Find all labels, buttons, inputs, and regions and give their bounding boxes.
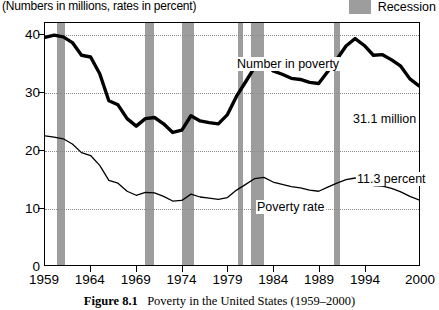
annotation-poverty-rate: Poverty rate (256, 200, 325, 214)
y-axis-tick-mark (38, 34, 44, 35)
annotation-number-in-poverty: Number in poverty (236, 57, 340, 71)
x-axis-tick-mark (365, 266, 366, 272)
x-axis-tick-label: 1959 (29, 272, 59, 287)
y-axis-tick-mark (38, 208, 44, 209)
plot-inner (45, 23, 419, 265)
x-axis-tick-mark (136, 266, 137, 272)
series-poverty-rate (45, 136, 419, 201)
figure-number: Figure 8.1 (84, 294, 138, 308)
legend: Recession (349, 0, 436, 14)
y-axis-tick-mark (38, 92, 44, 93)
figure-poverty-united-states: (Numbers in millions, rates in percent) … (0, 0, 439, 310)
annotation-last-rate: 11.3 percent (356, 172, 427, 186)
annotation-last-number: 31.1 million (352, 112, 417, 126)
x-axis-tick-label: 1969 (121, 272, 151, 287)
x-axis-tick-mark (227, 266, 228, 272)
x-axis-tick-label: 1974 (167, 272, 197, 287)
chart-subtitle: (Numbers in millions, rates in percent) (2, 0, 196, 13)
figure-caption-text: Poverty in the United States (1959–2000) (147, 294, 355, 308)
plot-area (44, 22, 420, 266)
x-axis-tick-mark (319, 266, 320, 272)
x-axis-tick-mark (182, 266, 183, 272)
legend-label-recession: Recession (378, 0, 436, 14)
x-axis-tick-label: 1964 (75, 272, 105, 287)
x-axis-tick-label: 2000 (405, 272, 435, 287)
x-axis-tick-label: 1989 (304, 272, 334, 287)
recession-swatch-icon (349, 0, 371, 14)
x-axis-tick-label: 1994 (350, 272, 380, 287)
x-axis-tick-label: 1984 (258, 272, 288, 287)
x-axis-tick-mark (90, 266, 91, 272)
y-axis-tick-mark (38, 150, 44, 151)
x-axis-tick-label: 1979 (212, 272, 242, 287)
figure-caption: Figure 8.1 Poverty in the United States … (0, 294, 439, 309)
x-axis-tick-mark (273, 266, 274, 272)
